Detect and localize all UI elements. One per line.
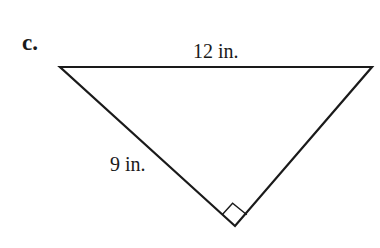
part-label: c. xyxy=(22,31,38,54)
top-side-length-label: 12 in. xyxy=(193,41,239,61)
left-side-length-label: 9 in. xyxy=(110,154,146,174)
triangle-figure xyxy=(0,0,380,248)
right-angle-marker-icon xyxy=(223,203,247,215)
right-triangle xyxy=(60,67,372,226)
triangle-diagram xyxy=(0,0,380,248)
